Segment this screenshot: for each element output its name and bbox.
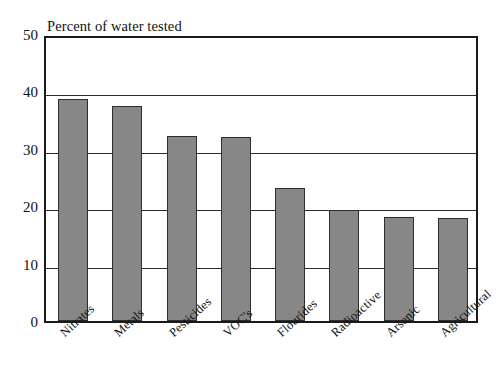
y-tick-label: 40 xyxy=(0,85,38,100)
bar-chart: Percent of water tested 01020304050 Nitr… xyxy=(0,0,504,392)
y-tick-label: 30 xyxy=(0,143,38,158)
gridline xyxy=(46,210,476,211)
plot-area xyxy=(44,36,478,323)
bar xyxy=(112,106,142,321)
y-tick-label: 20 xyxy=(0,200,38,215)
bar xyxy=(167,136,197,321)
y-tick-label: 10 xyxy=(0,258,38,273)
bar xyxy=(58,99,88,321)
y-tick-label: 0 xyxy=(0,315,38,330)
chart-title: Percent of water tested xyxy=(47,18,182,34)
bar xyxy=(221,137,251,321)
y-tick-label: 50 xyxy=(0,28,38,43)
gridline xyxy=(46,153,476,154)
bar xyxy=(275,188,305,321)
gridline xyxy=(46,95,476,96)
